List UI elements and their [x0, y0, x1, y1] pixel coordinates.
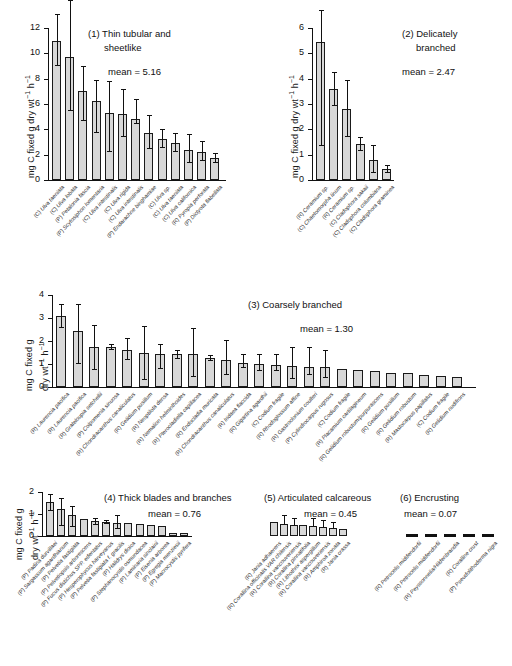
- error-bar: [177, 350, 178, 358]
- error-bar-cap: [94, 80, 99, 81]
- panel-3-y-tick-label: 3: [26, 312, 44, 322]
- error-bar: [61, 498, 62, 526]
- error-bar-cap: [109, 344, 114, 345]
- error-bar-cap: [94, 132, 99, 133]
- error-bar-cap: [208, 355, 213, 356]
- error-bar-cap: [257, 370, 262, 371]
- bar: [147, 525, 155, 536]
- bar: [482, 534, 494, 537]
- bar: [353, 370, 363, 387]
- error-bar-cap: [321, 520, 326, 521]
- panel-1-y-tick: [44, 129, 48, 130]
- panel-1-y-tick: [44, 155, 48, 156]
- bar: [452, 377, 462, 387]
- error-bar-cap: [213, 153, 218, 154]
- bar: [329, 528, 337, 536]
- bar: [124, 523, 132, 536]
- error-bar-cap: [345, 80, 350, 81]
- error-bar: [373, 145, 374, 173]
- error-bar-cap: [125, 338, 130, 339]
- panel-4-y-tick: [38, 514, 42, 515]
- error-bar: [313, 518, 314, 526]
- error-bar-cap: [371, 172, 376, 173]
- panel-4-plot-area: 012: [42, 492, 192, 536]
- panel-2-y-tick-label: 4: [286, 73, 304, 83]
- panel-3-y-tick: [48, 341, 52, 342]
- panel-1-y-tick-label: 0: [22, 174, 40, 184]
- error-bar: [284, 515, 285, 524]
- error-bar-cap: [134, 123, 139, 124]
- error-bar-cap: [358, 150, 363, 151]
- error-bar: [323, 520, 324, 527]
- error-bar-cap: [332, 72, 337, 73]
- panel-1-y-tick: [44, 28, 48, 29]
- error-bar: [215, 153, 216, 161]
- panel-2-y-tick-label: 1: [286, 149, 304, 159]
- error-bar-cap: [224, 340, 229, 341]
- error-bar-cap: [323, 377, 328, 378]
- panel-2-delicately-branched: mg C fixed g dry wt−1 h−1 (2) Delicately…: [250, 0, 512, 260]
- bar: [205, 358, 215, 387]
- bar: [280, 524, 288, 536]
- error-bar: [259, 354, 260, 370]
- error-bar: [309, 347, 310, 375]
- bar: [436, 376, 446, 387]
- error-bar-cap: [319, 10, 324, 11]
- error-bar-cap: [200, 141, 205, 142]
- error-bar-cap: [319, 145, 324, 146]
- panel-2-mean-label: mean = 2.47: [402, 66, 455, 77]
- error-bar-cap: [55, 65, 60, 66]
- bar: [80, 519, 88, 536]
- error-bar-cap: [358, 137, 363, 138]
- error-bar: [189, 134, 190, 161]
- error-bar: [70, 0, 71, 110]
- error-bar: [292, 347, 293, 378]
- error-bar: [96, 80, 97, 132]
- panel-5-articulated-calcareous: (5) Articulated calcareous mean = 0.45 (…: [256, 490, 396, 666]
- error-bar: [83, 66, 84, 120]
- error-bar-cap: [274, 370, 279, 371]
- panel-4-thick-blades-and-branches: mg C fixed g dry wt−1 h−1 (4) Thick blad…: [0, 490, 256, 666]
- error-bar: [243, 354, 244, 367]
- panel-1-y-axis: [48, 28, 49, 180]
- error-bar: [117, 515, 118, 528]
- bar: [319, 527, 327, 536]
- bar: [425, 534, 437, 537]
- error-bar-cap: [173, 133, 178, 134]
- bar: [158, 526, 166, 536]
- bar: [444, 534, 456, 537]
- error-bar-cap: [59, 498, 64, 499]
- error-bar: [149, 115, 150, 148]
- error-bar-cap: [290, 347, 295, 348]
- error-bar-cap: [331, 522, 336, 523]
- panel-2-y-tick: [308, 28, 312, 29]
- error-bar: [109, 81, 110, 151]
- panel-3-y-tick: [48, 318, 52, 319]
- bar: [299, 525, 307, 536]
- error-bar-cap: [311, 526, 316, 527]
- error-bar-cap: [292, 518, 297, 519]
- error-bar: [334, 72, 335, 105]
- error-bar: [50, 494, 51, 509]
- bar: [309, 526, 317, 536]
- panel-4-y-tick-label: 1: [16, 508, 34, 518]
- error-bar-cap: [59, 525, 64, 526]
- panel-3-x-axis: [52, 387, 476, 388]
- error-bar-cap: [321, 527, 326, 528]
- error-bar-cap: [331, 528, 336, 529]
- error-bar-cap: [241, 367, 246, 368]
- bar: [463, 534, 475, 537]
- error-bar-cap: [274, 354, 279, 355]
- panel-3-y-tick-label: 4: [26, 289, 44, 299]
- error-bar-cap: [93, 524, 98, 525]
- panel-2-plot-area: 0123456: [312, 28, 394, 180]
- error-bar: [136, 99, 137, 123]
- bar: [370, 371, 380, 387]
- panel-1-x-axis: [48, 180, 226, 181]
- error-bar-cap: [55, 14, 60, 15]
- error-bar-cap: [208, 360, 213, 361]
- error-bar-cap: [104, 520, 109, 521]
- panel-3-y-tick-label: 2: [26, 335, 44, 345]
- panel-6-encrusting: (6) Encrusting mean = 0.07 (R) Petroceli…: [396, 490, 512, 666]
- panel-4-y-tick: [38, 492, 42, 493]
